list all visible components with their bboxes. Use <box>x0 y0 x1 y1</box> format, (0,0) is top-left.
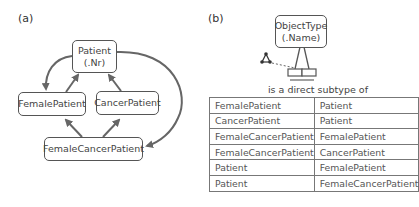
table-cell: Patient <box>314 98 419 114</box>
table-cell: Patient <box>210 175 315 191</box>
table-cell: FemalePatient <box>210 98 315 114</box>
node-patient-name: Patient <box>78 45 111 57</box>
table-cell: FemalePatient <box>314 129 419 145</box>
arrow-female-to-patient <box>66 75 78 92</box>
node-object-type-name: ObjectType <box>275 20 328 32</box>
table-row: PatientFemalePatient <box>210 160 419 176</box>
table-row: FemaleCancerPatientFemalePatient <box>210 129 419 145</box>
table-cell: CancerPatient <box>314 144 419 160</box>
node-object-type: ObjectType (.Name) <box>275 15 327 48</box>
role-box-1 <box>288 69 302 76</box>
fact-table: FemalePatientPatient CancerPatientPatien… <box>209 97 419 192</box>
table-cell: FemalePatient <box>314 160 419 176</box>
table-cell: Patient <box>210 160 315 176</box>
node-patient-refmode: (.Nr) <box>84 57 105 69</box>
fact-type-reading: is a direct subtype of <box>258 84 378 95</box>
table-row: PatientFemaleCancerPatient <box>210 175 419 191</box>
node-object-type-refmode: (.Name) <box>282 32 320 44</box>
role-box-2 <box>302 69 316 76</box>
table-cell: FemaleCancerPatient <box>210 129 315 145</box>
arrow-cancer-to-patient <box>109 75 121 91</box>
table-row: FemalePatientPatient <box>210 98 419 114</box>
table-cell: FemaleCancerPatient <box>314 175 419 191</box>
arrow-patient-to-female <box>46 56 72 89</box>
node-female-patient: FemalePatient <box>18 92 86 116</box>
arrow-fcp-to-cancer <box>103 120 119 137</box>
acyclic-constraint-icon <box>260 52 272 64</box>
table-row: CancerPatientPatient <box>210 113 419 129</box>
node-female-cancer-patient: FemaleCancerPatient <box>44 137 143 161</box>
table-cell: CancerPatient <box>210 113 315 129</box>
table-cell: Patient <box>314 113 419 129</box>
node-patient: Patient (.Nr) <box>72 40 117 73</box>
node-cancer-patient: CancerPatient <box>96 91 159 115</box>
table-row: FemaleCancerPatientCancerPatient <box>210 144 419 160</box>
table-cell: FemaleCancerPatient <box>210 144 315 160</box>
arrow-fcp-to-female <box>66 120 82 137</box>
